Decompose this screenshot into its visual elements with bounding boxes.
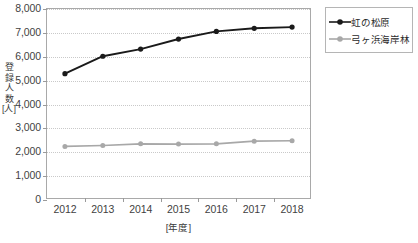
legend-item-yumigahamakaiganrin[interactable]: 弓ヶ浜海岸林 (329, 30, 408, 47)
data-point (176, 36, 181, 41)
legend-item-nijinomatsubara[interactable]: 虹の松原 (329, 13, 408, 30)
line-chart: 登 録 人 数 [人] 01,0002,0003,0004,0005,0006,… (0, 0, 418, 243)
legend-label-1: 弓ヶ浜海岸林 (351, 32, 410, 46)
legend-label-0: 虹の松原 (351, 15, 390, 29)
x-axis-title: [年度] (46, 220, 311, 234)
data-point (214, 29, 219, 34)
x-axis-tick-label: 2016 (205, 203, 228, 215)
x-axis-tick-label: 2013 (91, 203, 114, 215)
x-axis-tick-label: 2012 (53, 203, 76, 215)
data-point (62, 144, 67, 149)
data-point (176, 142, 181, 147)
data-point (100, 143, 105, 148)
data-point (252, 139, 257, 144)
data-point (214, 141, 219, 146)
x-axis-tick-label: 2015 (167, 203, 190, 215)
y-axis-tick-label: 5,000 (15, 74, 41, 86)
data-point (100, 54, 105, 59)
data-point (138, 46, 143, 51)
y-axis-tick (43, 200, 47, 201)
legend: 虹の松原 弓ヶ浜海岸林 (325, 7, 413, 53)
y-axis-tick-label: 3,000 (15, 121, 41, 133)
x-axis-tick-label: 2017 (243, 203, 266, 215)
data-point (62, 71, 67, 76)
y-axis-tick-label: 8,000 (15, 2, 41, 14)
y-axis-tick-label: 0 (35, 193, 41, 205)
data-point (252, 26, 257, 31)
x-axis-tick-label: 2018 (281, 203, 304, 215)
legend-marker-icon-0 (329, 16, 351, 28)
y-axis-tick-label: 4,000 (15, 98, 41, 110)
data-point (289, 25, 294, 30)
data-point (290, 138, 295, 143)
y-axis-tick-label: 7,000 (15, 26, 41, 38)
data-point (138, 141, 143, 146)
x-axis-tick-labels: 2012201320142015201620172018 (46, 203, 311, 219)
legend-marker-icon-1 (329, 33, 351, 45)
y-axis-tick-label: 2,000 (15, 145, 41, 157)
y-axis-tick-labels: 01,0002,0003,0004,0005,0006,0007,0008,00… (0, 0, 44, 243)
x-axis-tick-label: 2014 (129, 203, 152, 215)
data-series-layer (46, 8, 311, 199)
y-axis-tick-label: 6,000 (15, 50, 41, 62)
series-line (65, 27, 292, 74)
y-axis-tick-label: 1,000 (15, 169, 41, 181)
